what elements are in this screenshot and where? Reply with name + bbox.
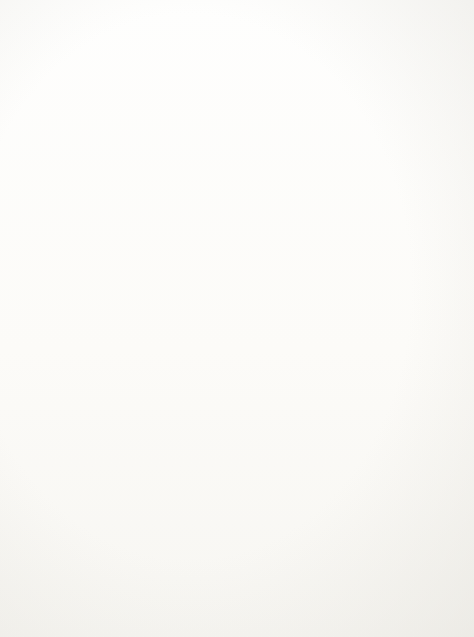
node-label-fire-gun-line-2: fire	[221, 67, 229, 78]
plan-net-figure: victimcause-to-bedeadactorshootvictimact…	[0, 0, 474, 637]
node-label-find-victim-line-1: actor	[315, 292, 323, 308]
node-label-aim-at-victim-line-1: actor	[219, 230, 227, 246]
node-label-find-victim-line-3: victim	[332, 290, 340, 310]
node-label-pull-trigger-line-1: actor	[325, 64, 333, 80]
edge-pull-trigger-to-pull-finger	[359, 47, 404, 64]
node-label-aim-at-victim-line-3: victim	[236, 228, 244, 248]
node-load-gun[interactable]: actorloadgun	[213, 441, 251, 489]
node-label-finger-trigger-line-1: actor	[415, 100, 423, 116]
node-shoulder-gun[interactable]: actorshouldergun	[308, 210, 348, 268]
node-label-goal-line-1: victim	[47, 306, 55, 326]
node-label-fire-gun-line-1: actor	[212, 64, 220, 80]
node-label-shoot-victim-line-1: actor	[137, 314, 145, 330]
edge-aim-to-monitor-outcome	[253, 194, 304, 225]
edge-pull-trigger-to-finger-trigger	[359, 80, 404, 98]
node-label-get-bullets-line-3: bullets	[334, 501, 342, 522]
node-pull-trigger[interactable]: actorpulltrigger	[318, 44, 358, 100]
node-label-monitor-outcome-line-3: outcome	[332, 167, 340, 193]
node-label-monitor-outcome-line-2: monitor	[324, 167, 332, 192]
node-label-finger-trigger-line-3: trigger	[432, 97, 440, 119]
figure-page: victimcause-to-bedeadactorshootvictimact…	[0, 0, 474, 637]
edge-load-to-get-bullets	[252, 475, 306, 501]
node-label-load-gun-line-1: actor	[219, 457, 227, 473]
node-label-finger-trigger-line-2: finger	[424, 99, 432, 118]
node-goal[interactable]: victimcause-to-bedead	[38, 280, 82, 352]
node-label-get-gun-line-1: actor	[219, 583, 227, 599]
node-label-pull-finger-line-2: pull	[424, 32, 432, 44]
edge-aim-to-shoulder-gun	[253, 238, 304, 239]
node-label-get-bullets-line-1: actor	[317, 504, 325, 520]
edge-shoot-to-aim-at-victim	[171, 262, 209, 301]
node-label-load-gun-line-2: load	[228, 458, 236, 471]
node-label-insert-bullets-line-1: actor	[317, 410, 325, 426]
node-label-load-gun-line-3: gun	[236, 459, 244, 471]
node-pull-finger[interactable]: actorpullfinger	[408, 12, 448, 64]
node-label-monitor-outcome-line-1: actor	[315, 172, 323, 188]
figure-caption-text: Figure 18.8. Plan net for a shooting.	[384, 186, 398, 374]
node-get-gun[interactable]: actorgetgun	[213, 568, 251, 614]
edge-aim-to-find-victim	[253, 252, 304, 285]
node-label-shoot-victim-line-2: shoot	[146, 313, 154, 330]
node-label-pull-finger-line-1: actor	[415, 30, 423, 46]
edge-shoot-to-load-gun	[168, 354, 216, 437]
node-fire-gun[interactable]: actorfiregun	[205, 46, 245, 98]
node-aim-at-victim[interactable]: actoraim.atvictim	[212, 211, 252, 265]
node-label-shoulder-gun-line-2: shoulder	[324, 225, 332, 252]
node-label-shoulder-gun-line-3: gun	[332, 233, 340, 245]
node-label-pull-finger-line-3: finger	[432, 29, 440, 48]
node-label-pull-trigger-line-3: trigger	[342, 61, 350, 83]
node-label-pull-trigger-line-2: pull	[334, 66, 342, 78]
figure-caption: Figure 18.8. Plan net for a shooting.	[383, 186, 398, 456]
node-label-get-gun-line-2: get	[228, 586, 236, 596]
edge-load-to-insert-bullets	[252, 429, 306, 455]
node-label-goal-line-3: dead	[64, 309, 72, 324]
node-get-bullets[interactable]: actorgetbullets	[310, 485, 350, 539]
edge-shoot-to-fire-gun	[160, 102, 216, 290]
node-label-insert-bullets-line-2: insert	[326, 408, 334, 426]
node-label-get-gun-line-3: gun	[236, 585, 244, 597]
node-label-shoulder-gun-line-1: actor	[315, 231, 323, 247]
node-label-insert-bullets-line-3: bullets	[334, 407, 342, 428]
node-label-find-victim-line-2: find	[324, 294, 332, 307]
node-label-aim-at-victim-line-2: aim.at	[228, 228, 236, 248]
node-label-get-bullets-line-2: get	[326, 507, 334, 517]
node-find-victim[interactable]: actorfindvictim	[308, 274, 348, 326]
edge-goal-to-shoot	[83, 318, 126, 321]
node-label-shoot-victim-line-3: victim	[154, 312, 162, 332]
node-label-fire-gun-line-3: gun	[229, 66, 237, 78]
node-insert-bullets[interactable]: actorinsertbullets	[310, 390, 350, 446]
node-label-goal-line-2: cause-to-be	[56, 298, 64, 333]
plan-net-diagram: victimcause-to-bedeadactorshootvictimact…	[0, 0, 474, 637]
node-finger-trigger[interactable]: actorfingertrigger	[408, 80, 448, 136]
node-shoot-victim[interactable]: actorshootvictim	[130, 291, 170, 353]
node-monitor-outcome[interactable]: actormonitoroutcome	[308, 151, 348, 209]
